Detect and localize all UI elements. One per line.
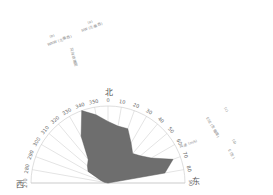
angle-tick-label: 300 — [31, 136, 41, 147]
angle-tick-label: 80 — [186, 165, 193, 172]
angle-tick-label: 0 — [106, 97, 109, 103]
angle-tick-label: 20 — [132, 101, 140, 109]
angle-tick-label: 70 — [182, 151, 190, 159]
angle-tick-label: 50 — [167, 126, 176, 135]
polar-chart: 2702802903003103203303403500102030405060… — [0, 0, 273, 195]
angle-tick-label: 30 — [145, 107, 154, 115]
angle-tick-label: 290 — [26, 149, 35, 160]
angle-tick-label: 10 — [119, 98, 126, 105]
angle-tick-label: 40 — [157, 115, 166, 124]
annotation-text: (c) — [223, 107, 229, 114]
west-label: 西 — [16, 180, 24, 189]
angle-tick-label: 350 — [88, 98, 98, 106]
annotation-text: 风向玫瑰图 — [69, 47, 79, 68]
annotation-text: E (东) — [227, 148, 237, 160]
east-label: 东 — [192, 176, 200, 186]
angle-tick-label: 280 — [23, 163, 31, 173]
angle-tick-label: 330 — [61, 106, 72, 116]
north-label: 北 — [105, 88, 113, 97]
annotation-text: (b) — [49, 33, 56, 39]
angle-tick-label: 340 — [74, 101, 85, 110]
annotation-text: (d) — [231, 139, 237, 146]
annotation-text: ESE (东偏南) — [205, 116, 221, 139]
annotation-left: (a)NW (北偏西)风向玫瑰图(b)WNW (北偏西) — [47, 19, 104, 67]
